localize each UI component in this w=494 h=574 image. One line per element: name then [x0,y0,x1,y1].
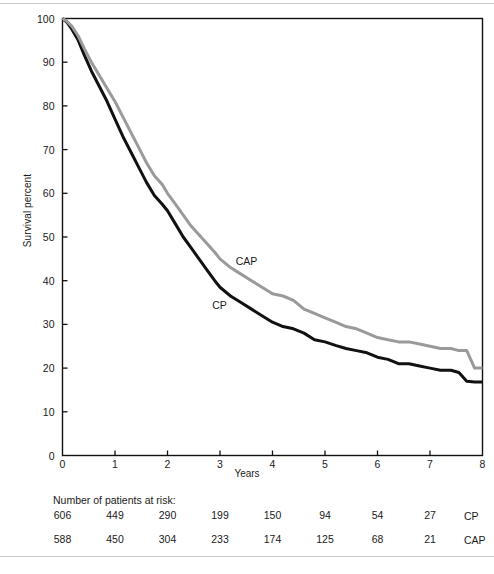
risk-table-cell: 54 [358,510,398,521]
plot-area [0,0,494,574]
risk-table-cell: 449 [95,510,135,521]
risk-table-row-label-cp: CP [464,510,479,522]
risk-table-cell: 233 [200,534,240,545]
survival-curve-cap [63,19,483,369]
y-tick-label: 60 [21,188,55,198]
x-tick-label: 2 [156,459,180,469]
survival-curve-figure: Survival percent Years 01020304050607080… [0,0,494,574]
curve-label-cp: CP [212,299,227,311]
risk-table-cell: 606 [43,510,83,521]
y-tick-label: 50 [21,232,55,242]
y-tick-label: 90 [21,57,55,67]
curve-label-cap: CAP [236,255,258,267]
y-tick-label: 80 [21,101,55,111]
risk-table-cell: 27 [410,510,450,521]
x-tick-label: 0 [51,459,75,469]
x-tick-label: 1 [103,459,127,469]
y-tick-label: 30 [21,319,55,329]
survival-curve-cp [63,19,483,383]
risk-table-cell: 125 [305,534,345,545]
x-axis-label: Years [0,468,494,479]
x-tick-label: 6 [366,459,390,469]
x-tick-label: 3 [208,459,232,469]
risk-table-cell: 199 [200,510,240,521]
risk-table-title: Number of patients at risk: [53,494,176,506]
y-tick-label: 0 [21,451,55,461]
y-axis-label: Survival percent [22,151,33,271]
risk-table-cell: 21 [410,534,450,545]
risk-table-row-label-cap: CAP [464,534,486,546]
risk-table-cell: 290 [148,510,188,521]
x-tick-label: 8 [471,459,494,469]
risk-table-cell: 304 [148,534,188,545]
y-tick-label: 100 [21,14,55,24]
x-tick-label: 5 [313,459,337,469]
risk-table-cell: 588 [43,534,83,545]
x-tick-label: 4 [261,459,285,469]
y-tick-label: 70 [21,145,55,155]
plot-frame [63,19,483,456]
risk-table-cell: 450 [95,534,135,545]
y-tick-label: 40 [21,276,55,286]
y-tick-label: 10 [21,407,55,417]
risk-table-cell: 174 [253,534,293,545]
x-tick-label: 7 [418,459,442,469]
risk-table-cell: 150 [253,510,293,521]
risk-table-cell: 94 [305,510,345,521]
risk-table-cell: 68 [358,534,398,545]
y-tick-label: 20 [21,363,55,373]
